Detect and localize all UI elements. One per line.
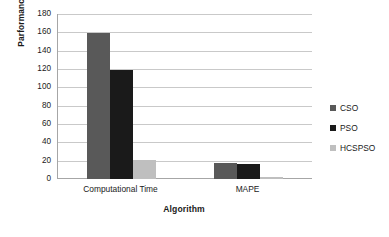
- x-axis-title: Algorithm: [57, 203, 311, 215]
- bar-hcspso[interactable]: [133, 160, 156, 179]
- y-axis-title: Parformance metrics: [14, 0, 28, 64]
- legend-swatch-icon: [330, 145, 336, 151]
- y-axis-tick-label: 140: [37, 47, 51, 55]
- y-axis-tick-label: 40: [42, 138, 51, 146]
- bar-hcspso[interactable]: [260, 177, 283, 179]
- legend-label: PSO: [340, 123, 358, 133]
- x-axis-tick-label: MAPE: [184, 183, 311, 195]
- plot-area: [57, 14, 312, 179]
- y-axis-tick-label: 0: [46, 175, 51, 183]
- legend-swatch-icon: [330, 105, 336, 111]
- legend-item-pso[interactable]: PSO: [330, 118, 388, 138]
- y-axis-tick-label: 80: [42, 102, 51, 110]
- legend-label: CSO: [340, 103, 358, 113]
- legend-item-cso[interactable]: CSO: [330, 98, 388, 118]
- bar-group: [214, 14, 283, 179]
- y-axis-tick-label: 120: [37, 65, 51, 73]
- x-axis-tick-labels: Computational TimeMAPE: [57, 183, 311, 197]
- bar-cso[interactable]: [87, 33, 110, 179]
- legend-swatch-icon: [330, 125, 336, 131]
- y-axis-tick-label: 100: [37, 83, 51, 91]
- y-axis-tick-labels: 180160140120100806040200: [28, 14, 54, 179]
- bar-pso[interactable]: [237, 164, 260, 179]
- bar-cso[interactable]: [214, 163, 237, 180]
- chart-legend: CSOPSOHCSPSO: [330, 98, 388, 158]
- bar-pso[interactable]: [110, 70, 133, 179]
- y-axis-tick-label: 60: [42, 120, 51, 128]
- y-axis-tick-label: 180: [37, 10, 51, 18]
- legend-label: HCSPSO: [340, 143, 375, 153]
- x-axis-tick-label: Computational Time: [57, 183, 184, 195]
- legend-item-hcspso[interactable]: HCSPSO: [330, 138, 388, 158]
- bar-group: [87, 14, 156, 179]
- bar-chart: Parformance metrics 18016014012010080604…: [0, 0, 389, 237]
- bar-groups: [58, 14, 312, 179]
- y-axis-tick-label: 160: [37, 28, 51, 36]
- y-axis-tick-label: 20: [42, 157, 51, 165]
